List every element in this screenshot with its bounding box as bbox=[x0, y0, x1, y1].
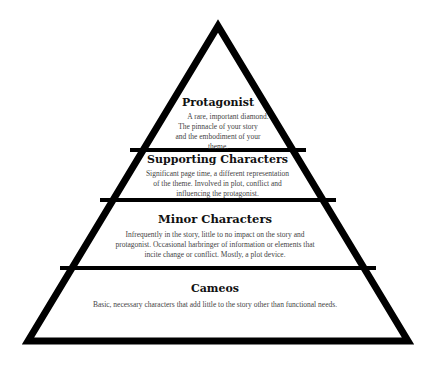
tier-description: Infrequently in the story, little to no … bbox=[60, 230, 370, 260]
tier-title: Cameos bbox=[40, 282, 390, 295]
tier-minor-characters: Minor Characters Infrequently in the sto… bbox=[60, 212, 370, 260]
tier-supporting-characters: Supporting Characters Significant page t… bbox=[105, 153, 330, 199]
tier-title: Protagonist bbox=[140, 96, 296, 109]
tier-protagonist: Protagonist A rare, important diamond. T… bbox=[140, 96, 296, 153]
tier-cameos: Cameos Basic, necessary characters that … bbox=[40, 282, 390, 310]
tier-description: A rare, important diamond. The pinnacle … bbox=[140, 112, 296, 153]
tier-description: Basic, necessary characters that add lit… bbox=[40, 300, 390, 310]
tier-title: Minor Characters bbox=[60, 212, 370, 226]
tier-title: Supporting Characters bbox=[105, 153, 330, 166]
tier-description: Significant page time, a different repre… bbox=[105, 169, 330, 199]
